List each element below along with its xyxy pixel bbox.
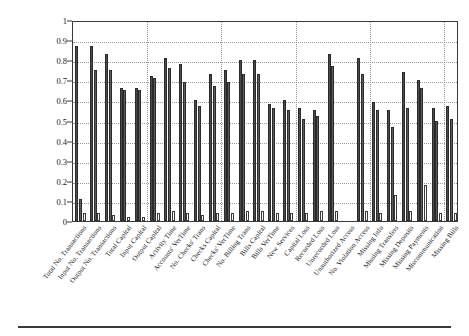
bar: [376, 110, 379, 221]
bar-group: [281, 22, 296, 221]
y-tick-label: 0.4: [56, 137, 67, 146]
bar-group: [192, 22, 207, 221]
y-tick-label: 0.8: [56, 57, 67, 66]
y-tick-label: 0.1: [56, 198, 67, 207]
bar-group: [325, 22, 340, 221]
y-tick-label: 0.9: [56, 37, 67, 46]
y-tick-label: 0.6: [56, 97, 67, 106]
y-axis-ticks: 00.10.20.30.40.50.60.70.80.91: [0, 21, 72, 222]
bar-group: [296, 22, 311, 221]
x-axis-labels: Total No. TransactionsInput No. Transact…: [72, 224, 458, 314]
bottom-rule: [18, 326, 451, 328]
y-tick-label: 0.3: [56, 157, 67, 166]
bar: [94, 70, 97, 221]
bar-group: [88, 22, 103, 221]
bar: [75, 46, 78, 221]
y-tick-label: 0.2: [56, 178, 67, 187]
y-tick-label: 0.5: [56, 117, 67, 126]
bar-group: [162, 22, 177, 221]
figure: Correlations to Risks (Gen Pos Neg) 00.1…: [0, 0, 469, 336]
bar-group: [311, 22, 326, 221]
bar-group: [73, 22, 88, 221]
bar-group: [147, 22, 162, 221]
bar-group: [400, 22, 415, 221]
bar: [272, 108, 275, 221]
bar: [90, 46, 93, 221]
y-tick-label: 0.7: [56, 77, 67, 86]
bar: [79, 199, 82, 221]
